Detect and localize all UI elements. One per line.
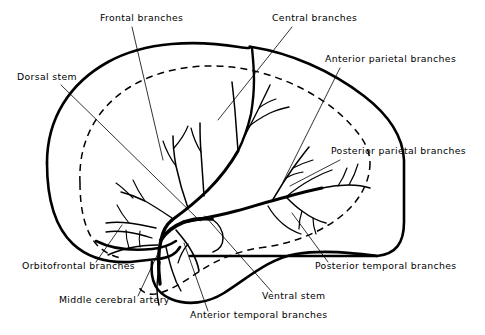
frontal-branch-3-twig-b (116, 183, 133, 198)
frontal-branch-1-twig-b (174, 126, 188, 148)
label-central-branches: Central branches (272, 12, 357, 23)
mca-diagram-figure: Frontal branches Central branches Anteri… (0, 0, 485, 335)
frontal-branch-4-twig (117, 205, 129, 223)
sylvian-loop-artery (212, 219, 223, 252)
posterior-parietal-branch-1-twig-b (338, 168, 347, 186)
cerebral-artery-diagram: Frontal branches Central branches Anteri… (0, 0, 485, 335)
posterior-parietal-branch-1-twig-a (349, 164, 358, 185)
central-branch-2 (243, 85, 270, 139)
orbitofrontal-branch-2 (106, 231, 152, 238)
label-middle-cerebral-artery: Middle cerebral artery (59, 294, 170, 305)
dorsal-stem-artery (172, 151, 238, 220)
frontal-branch-3 (121, 192, 172, 218)
frontal-orbital-outline (47, 163, 157, 262)
label-dorsal-stem: Dorsal stem (17, 71, 77, 82)
anterior-temporal-branch-1 (176, 230, 199, 271)
orbitofrontal-branch-1-twig-b (139, 231, 140, 247)
label-orbitofrontal-branches: Orbitofrontal branches (22, 260, 135, 271)
leader-anterior-parietal-branches (283, 68, 340, 182)
posterior-temporal-branch-1 (286, 197, 326, 223)
label-anterior-temporal-branches: Anterior temporal branches (190, 309, 328, 320)
dorsal-stem-artery-upper (238, 48, 254, 151)
watershed-boundary-dorsal (80, 66, 370, 183)
label-anterior-parietal-branches: Anterior parietal branches (325, 53, 456, 64)
posterior-temporal-branch-2 (268, 206, 301, 234)
frontal-branch-2 (200, 123, 204, 196)
label-ventral-stem: Ventral stem (262, 290, 325, 301)
central-branch-3 (247, 107, 289, 128)
leader-ventral-stem (205, 216, 272, 292)
label-posterior-parietal-branches: Posterior parietal branches (331, 145, 466, 156)
posterior-parietal-branch-1 (322, 185, 370, 188)
central-branch-1 (232, 82, 238, 151)
label-frontal-branches: Frontal branches (100, 12, 183, 23)
posterior-temporal-branch-1-twig-b (313, 218, 316, 234)
leader-central-branches (218, 27, 292, 120)
frontal-branch-4-prefrontal (106, 222, 156, 228)
label-posterior-temporal-branches: Posterior temporal branches (315, 260, 456, 271)
leader-anterior-temporal-branches (184, 243, 208, 311)
